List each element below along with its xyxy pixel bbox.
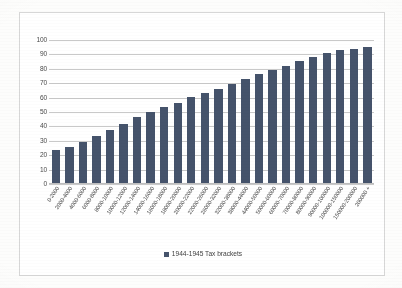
bar-slot [225, 40, 239, 183]
x-label-slot: 60000-70000 [279, 185, 293, 247]
x-label-slot: 6000-8000 [90, 185, 104, 247]
plot-area [49, 40, 374, 184]
bar [187, 97, 195, 183]
bar-slot [266, 40, 280, 183]
x-label-slot: 14000-16000 [144, 185, 158, 247]
x-label-slot: 38000-44000 [239, 185, 253, 247]
y-axis-tick: 30 [40, 138, 47, 145]
x-label-slot: 26000-32000 [212, 185, 226, 247]
chart-card: 0102030405060708090100 0-20002000-400040… [19, 12, 385, 276]
x-axis-line [49, 183, 374, 184]
x-label-slot: 50000-60000 [266, 185, 280, 247]
bar-slot [103, 40, 117, 183]
y-axis-tick: 60 [40, 94, 47, 101]
x-label-slot: 0-2000 [49, 185, 63, 247]
x-label-slot: 2000-4000 [63, 185, 77, 247]
x-label-slot: 200000 + [361, 185, 375, 247]
bar-slot [333, 40, 347, 183]
legend-label: 1944-1945 Tax brackets [172, 251, 242, 258]
bar-slot [239, 40, 253, 183]
bar-slot [49, 40, 63, 183]
bar [282, 66, 290, 183]
bar [201, 93, 209, 183]
y-axis-tick: 20 [40, 152, 47, 159]
y-axis-tick: 40 [40, 123, 47, 130]
bar-slot [212, 40, 226, 183]
bar [160, 107, 168, 183]
bar [295, 61, 303, 183]
bar [309, 57, 317, 183]
legend-swatch-icon [164, 252, 169, 257]
bar [323, 53, 331, 183]
bar-slot [306, 40, 320, 183]
bar [363, 47, 371, 183]
y-axis-tick: 10 [40, 166, 47, 173]
x-label-slot: 12000-14000 [130, 185, 144, 247]
bar-slot [144, 40, 158, 183]
bar [268, 70, 276, 183]
y-axis-tick: 100 [37, 37, 47, 44]
bar-slot [117, 40, 131, 183]
bar-slot [293, 40, 307, 183]
bar [336, 50, 344, 183]
bar-series [49, 40, 374, 183]
bar [79, 142, 87, 183]
bar-slot [198, 40, 212, 183]
x-label-slot: 44000-50000 [252, 185, 266, 247]
x-label-slot: 8000-10000 [103, 185, 117, 247]
bar [146, 112, 154, 184]
bar-slot [361, 40, 375, 183]
bar-slot [76, 40, 90, 183]
y-axis-tick: 70 [40, 80, 47, 87]
bar [65, 147, 73, 183]
bar [241, 79, 249, 183]
x-label-slot: 22000-26000 [198, 185, 212, 247]
bar-slot [184, 40, 198, 183]
y-axis-tick: 90 [40, 51, 47, 58]
bar [350, 49, 358, 183]
bar-slot [130, 40, 144, 183]
bar-slot [157, 40, 171, 183]
x-label-slot: 70000-80000 [293, 185, 307, 247]
bar-slot [63, 40, 77, 183]
x-label-slot: 16000-18000 [157, 185, 171, 247]
y-axis-tick: 50 [40, 109, 47, 116]
bar [133, 117, 141, 183]
scanned-page: 0102030405060708090100 0-20002000-400040… [0, 0, 402, 288]
bar [92, 136, 100, 183]
bar-slot [252, 40, 266, 183]
bar [52, 150, 60, 183]
bar [228, 84, 236, 183]
bar [106, 130, 114, 183]
x-label-slot: 20000-22000 [184, 185, 198, 247]
y-axis-tick-labels: 0102030405060708090100 [25, 40, 47, 184]
y-axis-tick: 80 [40, 66, 47, 73]
bar-slot [320, 40, 334, 183]
y-axis-tick: 0 [44, 181, 47, 188]
bar [214, 89, 222, 183]
bar-slot [279, 40, 293, 183]
bar [174, 103, 182, 183]
bar [119, 124, 127, 183]
chart-legend: 1944-1945 Tax brackets [20, 251, 386, 258]
bar-slot [347, 40, 361, 183]
chart-plot-wrapper: 0102030405060708090100 0-20002000-400040… [20, 13, 386, 277]
x-axis-tick-labels: 0-20002000-40004000-60006000-80008000-10… [49, 185, 374, 247]
bar-slot [171, 40, 185, 183]
bar-slot [90, 40, 104, 183]
x-label-slot: 18000-20000 [171, 185, 185, 247]
bar [255, 74, 263, 183]
